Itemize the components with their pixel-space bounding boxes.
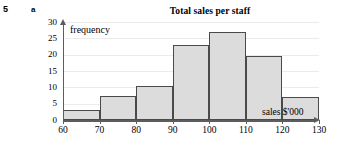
- histogram-bar: [209, 32, 246, 120]
- plot-area: 051015202530 60708090100110120130 freque…: [0, 0, 337, 147]
- page-root: 5 a Total sales per staff 051015202530 6…: [0, 0, 337, 147]
- histogram-bar: [173, 45, 210, 120]
- gridline: [63, 22, 319, 23]
- y-axis-tick-label: 15: [39, 67, 57, 76]
- y-axis-tick-label: 20: [39, 50, 57, 59]
- y-axis-title: frequency: [70, 25, 110, 35]
- x-axis-tick-mark: [246, 120, 247, 124]
- x-axis-tick-mark: [209, 120, 210, 124]
- x-axis-tick-mark: [319, 120, 320, 124]
- x-axis-line: [63, 120, 316, 122]
- x-axis-tick-mark: [100, 120, 101, 124]
- y-axis-tick-label: 25: [39, 34, 57, 43]
- x-axis-tick-label: 60: [50, 126, 76, 136]
- y-axis-tick-label: 30: [39, 18, 57, 27]
- histogram-bar: [136, 86, 173, 120]
- histogram-chart: Total sales per staff 051015202530 60708…: [0, 0, 337, 147]
- x-axis-tick-label: 110: [233, 126, 259, 136]
- x-axis-tick-label: 80: [123, 126, 149, 136]
- x-axis-tick-label: 130: [306, 126, 332, 136]
- x-axis-tick-mark: [136, 120, 137, 124]
- y-axis-tick-label: 0: [39, 116, 57, 125]
- y-axis-tick-label: 10: [39, 83, 57, 92]
- x-axis-tick-mark: [63, 120, 64, 124]
- x-axis-tick-label: 120: [269, 126, 295, 136]
- x-axis-tick-mark: [282, 120, 283, 124]
- histogram-bar: [100, 96, 137, 121]
- y-axis-arrow-icon: [60, 19, 66, 25]
- x-axis-tick-label: 90: [160, 126, 186, 136]
- x-axis-tick-label: 100: [196, 126, 222, 136]
- y-axis-line: [63, 24, 64, 120]
- x-axis-tick-label: 70: [87, 126, 113, 136]
- x-axis-tick-mark: [173, 120, 174, 124]
- y-axis-tick-label: 5: [39, 99, 57, 108]
- x-axis-title: sales $'000: [262, 108, 304, 118]
- histogram-bar: [63, 110, 100, 120]
- gridline: [63, 38, 319, 39]
